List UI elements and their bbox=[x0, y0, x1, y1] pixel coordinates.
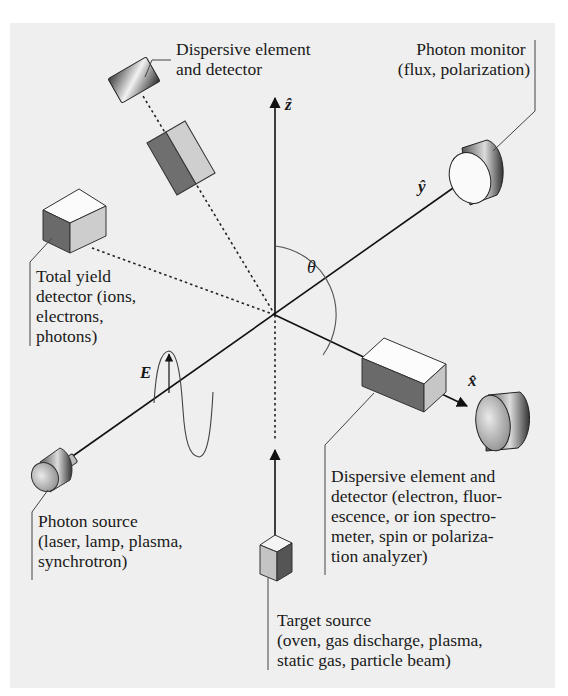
y-axis-label: ŷ bbox=[416, 177, 426, 196]
theta-arc bbox=[275, 246, 336, 355]
e-field-wave bbox=[154, 351, 213, 457]
label-dispersive-top: Dispersive element and detector bbox=[176, 39, 315, 79]
right-dispersive-box bbox=[362, 338, 446, 412]
top-detector-cylinder bbox=[108, 57, 160, 103]
y-axis bbox=[70, 181, 463, 458]
photon-source-lamp bbox=[26, 448, 78, 496]
total-yield-cube bbox=[43, 189, 106, 253]
label-dispersive-bottom: Dispersive element and detector (electro… bbox=[331, 466, 507, 566]
target-source-cube bbox=[260, 535, 292, 581]
top-dispersive-prism bbox=[147, 121, 215, 195]
experiment-diagram: θ E ẑ ŷ x̂ bbox=[0, 0, 568, 696]
e-field-label: E bbox=[139, 363, 151, 382]
x-axis-label: x̂ bbox=[467, 371, 477, 390]
theta-label: θ bbox=[307, 257, 316, 277]
label-photon-source: Photon source (laser, lamp, plasma, sync… bbox=[38, 511, 187, 571]
label-total-yield: Total yield detector (ions, electrons, p… bbox=[36, 266, 140, 346]
z-axis-label: ẑ bbox=[284, 95, 292, 114]
label-photon-monitor: Photon monitor (flux, polarization) bbox=[398, 39, 530, 79]
label-target-source: Target source (oven, gas discharge, plas… bbox=[277, 610, 487, 670]
x-axis-detector-cylinder bbox=[472, 392, 529, 453]
